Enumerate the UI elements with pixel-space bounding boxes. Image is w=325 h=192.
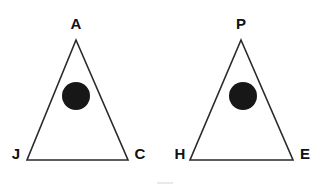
right-triangle-base-left-label: H [175,145,186,162]
figure-canvas: A J C P H E [0,0,325,192]
right-triangle-base-right-label: E [300,145,310,162]
right-triangle-apex-label: P [236,15,246,32]
left-triangle-group: A J C [12,15,146,162]
geometry-figure: A J C P H E [0,0,325,192]
scan-artifact-mark [157,182,173,184]
left-triangle-base-left-label: J [12,145,20,162]
left-triangle-inner-circle [62,82,90,110]
left-triangle-base-right-label: C [135,145,146,162]
left-triangle-apex-label: A [71,15,82,32]
right-triangle-inner-circle [229,82,257,110]
right-triangle-group: P H E [175,15,310,162]
